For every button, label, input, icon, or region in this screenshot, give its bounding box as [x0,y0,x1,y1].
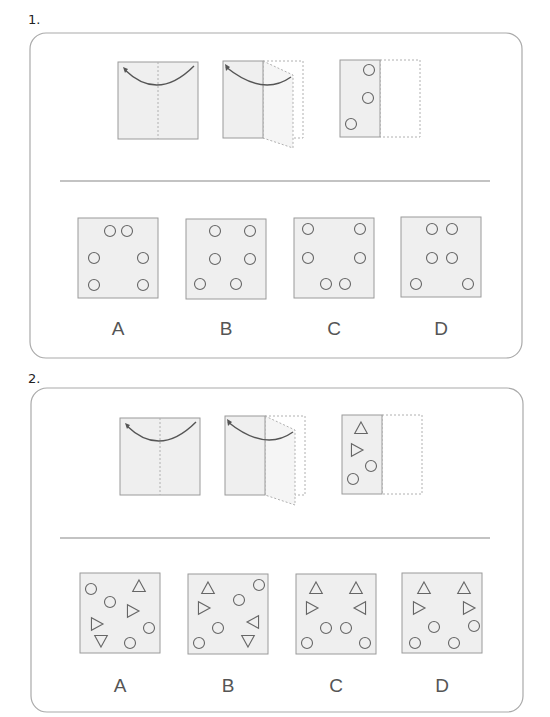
option-label-c[interactable]: C [316,675,356,697]
option-a[interactable] [80,573,160,653]
fold-step-2 [223,61,303,148]
fold-step-3-punched [342,415,422,494]
option-label-b[interactable]: B [208,675,248,697]
figure-canvas [0,0,550,717]
option-c[interactable] [296,574,376,654]
fold-step-2 [225,416,305,505]
option-box[interactable] [186,219,266,299]
option-box[interactable] [78,218,158,298]
option-b[interactable] [186,219,266,299]
option-label-c[interactable]: C [314,318,354,340]
question-2-panel [31,388,523,712]
option-box[interactable] [294,218,374,298]
option-c[interactable] [294,218,374,298]
fold-step-1 [118,62,198,139]
question-number: 1. [28,12,40,27]
fold-step-3-punched [340,60,420,137]
option-d[interactable] [401,217,481,297]
folding-flap [265,416,295,505]
fold-step-1 [120,418,200,495]
option-b[interactable] [188,574,268,654]
option-box[interactable] [80,573,160,653]
option-box[interactable] [401,217,481,297]
option-label-a[interactable]: A [100,675,140,697]
question-1-panel [30,33,522,358]
option-label-a[interactable]: A [98,318,138,340]
option-label-d[interactable]: D [421,318,461,340]
option-a[interactable] [78,218,158,298]
folding-flap [263,61,293,148]
option-label-b[interactable]: B [206,318,246,340]
option-d[interactable] [402,573,482,653]
option-label-d[interactable]: D [422,675,462,697]
question-number: 2. [28,371,40,386]
